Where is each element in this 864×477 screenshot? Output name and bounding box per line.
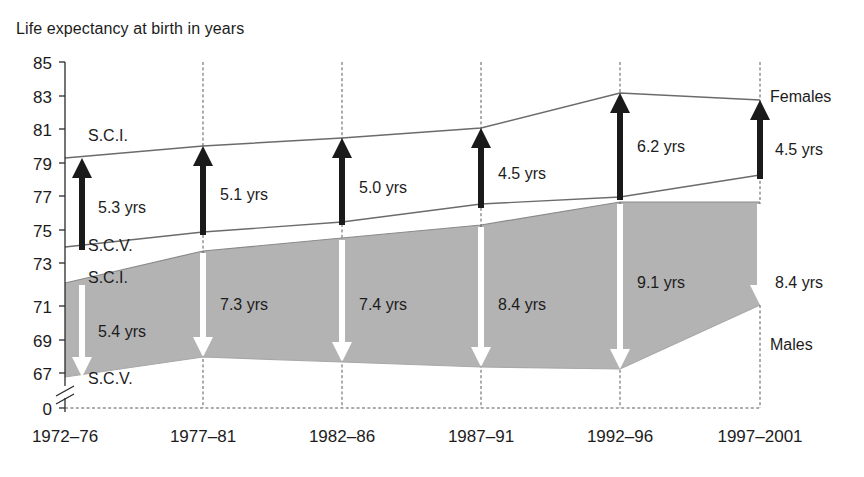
xtick-1987-91: 1987–91	[448, 427, 514, 446]
female-gap-arrow-1987-91	[471, 128, 491, 208]
group-label-females: Females	[770, 88, 831, 105]
ytick-83: 83	[33, 88, 52, 107]
female-gap-label-1982-86: 5.0 yrs	[359, 179, 407, 196]
female-gap-arrow-1977-81	[193, 146, 213, 235]
male-gap-label-1987-91: 8.4 yrs	[498, 296, 546, 313]
ytick-73: 73	[33, 255, 52, 274]
female-gap-arrow-1992-96	[610, 93, 630, 200]
male-gap-label-1972-76: 5.4 yrs	[98, 323, 146, 340]
male-gap-label-1977-81: 7.3 yrs	[220, 296, 268, 313]
y-tick-labels: 85 83 81 79 77 75 73 71 69 67 0	[33, 54, 52, 419]
ytick-77: 77	[33, 188, 52, 207]
ytick-85: 85	[33, 54, 52, 73]
female-gap-label-1987-91: 4.5 yrs	[498, 165, 546, 182]
ytick-79: 79	[33, 155, 52, 174]
chart-figure: Life expectancy at birth in years	[0, 0, 864, 477]
curve-label-males-scv: S.C.V.	[88, 370, 133, 387]
male-gap-label-1997-2001: 8.4 yrs	[775, 274, 823, 291]
xtick-1997-2001: 1997–2001	[717, 427, 802, 446]
curve-label-females-scv: S.C.V.	[88, 237, 133, 254]
female-gap-arrow-1982-86	[332, 138, 352, 225]
female-gap-label-1997-2001: 4.5 yrs	[775, 141, 823, 158]
female-gap-label-1972-76: 5.3 yrs	[98, 199, 146, 216]
ytick-69: 69	[33, 332, 52, 351]
ytick-67: 67	[33, 365, 52, 384]
x-tick-labels: 1972–76 1977–81 1982–86 1987–91 1992–96 …	[32, 427, 803, 446]
group-labels: Females Males	[770, 88, 831, 353]
group-label-males: Males	[770, 336, 813, 353]
female-gap-label-1992-96: 6.2 yrs	[637, 138, 685, 155]
y-axis	[59, 62, 65, 412]
ytick-71: 71	[33, 298, 52, 317]
xtick-1992-96: 1992–96	[587, 427, 653, 446]
curve-label-females-sci: S.C.I.	[88, 127, 128, 144]
xtick-1972-76: 1972–76	[32, 427, 98, 446]
ytick-75: 75	[33, 222, 52, 241]
ytick-81: 81	[33, 121, 52, 140]
male-gap-label-1982-86: 7.4 yrs	[359, 296, 407, 313]
female-gap-label-1977-81: 5.1 yrs	[220, 186, 268, 203]
chart-plot-area: 85 83 81 79 77 75 73 71 69 67 0 1972–76 …	[0, 0, 864, 477]
curve-label-males-sci: S.C.I.	[88, 269, 128, 286]
ytick-0: 0	[43, 400, 52, 419]
xtick-1982-86: 1982–86	[309, 427, 375, 446]
female-gap-arrow-1997-2001	[750, 100, 770, 179]
xtick-1977-81: 1977–81	[170, 427, 236, 446]
male-gap-label-1992-96: 9.1 yrs	[637, 274, 685, 291]
